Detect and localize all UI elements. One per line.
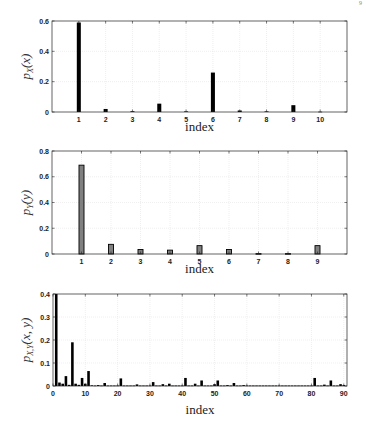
x-tick-label: 7 — [257, 258, 261, 265]
y-tick-label: 0.3 — [40, 314, 50, 321]
y-tick-label: 0.8 — [39, 148, 49, 155]
bar — [71, 342, 74, 386]
plot-area — [52, 21, 347, 112]
chart-pxy: 00.10.20.30.40102030405060708090indexpX,… — [18, 291, 348, 418]
x-tick-label: 7 — [238, 116, 242, 123]
y-tick-label: 0 — [45, 251, 49, 258]
bar — [103, 383, 106, 386]
bar — [313, 378, 316, 386]
x-tick-label: 70 — [275, 390, 283, 397]
bar — [65, 376, 68, 386]
y-tick-label: 0.2 — [40, 337, 50, 344]
y-tick-label: 0.4 — [40, 291, 50, 298]
bar — [330, 380, 333, 386]
x-tick-label: 0 — [51, 390, 55, 397]
y-tick-label: 0.1 — [40, 360, 50, 367]
y-tick-label: 0.4 — [39, 48, 49, 55]
x-axis-label: index — [185, 119, 214, 134]
y-axis-label: pX(x) — [18, 54, 35, 81]
bar — [233, 383, 236, 386]
x-tick-label: 3 — [139, 258, 143, 265]
x-tick-label: 10 — [316, 116, 324, 123]
x-tick-label: 90 — [340, 390, 348, 397]
y-tick-label: 0.4 — [39, 199, 49, 206]
x-axis-label: index — [185, 261, 214, 276]
x-axis-label: index — [186, 402, 215, 417]
x-tick-label: 80 — [308, 390, 316, 397]
x-tick-label: 30 — [146, 390, 154, 397]
y-axis-label: pY(y) — [18, 190, 35, 216]
chart-py: 00.20.40.60.8123456789indexpY(y) — [18, 148, 347, 277]
x-tick-label: 40 — [178, 390, 186, 397]
x-tick-label: 1 — [77, 116, 81, 123]
bar — [211, 73, 215, 112]
x-tick-label: 50 — [211, 390, 219, 397]
x-tick-label: 9 — [316, 258, 320, 265]
x-tick-label: 4 — [157, 116, 161, 123]
x-tick-label: 4 — [168, 258, 172, 265]
bar — [58, 383, 61, 386]
bar — [184, 378, 187, 386]
chart-px-marginal: 00.20.40.612345678910indexpX(x)00.20.40.… — [0, 0, 366, 425]
bar — [87, 371, 90, 386]
y-tick-label: 0.2 — [39, 225, 49, 232]
chart-px: 00.20.40.612345678910indexpX(x) — [18, 18, 347, 135]
y-tick-label: 0.6 — [39, 18, 49, 25]
x-tick-label: 1 — [80, 258, 84, 265]
y-tick-label: 0.2 — [39, 78, 49, 85]
x-tick-label: 10 — [81, 390, 89, 397]
y-axis-label: pX,Y(x, y) — [18, 318, 35, 364]
x-tick-label: 6 — [227, 258, 231, 265]
bar — [120, 378, 123, 386]
bar — [79, 165, 84, 254]
bar — [81, 378, 84, 386]
bar — [216, 380, 219, 386]
x-tick-label: 3 — [131, 116, 135, 123]
y-tick-label: 0 — [45, 109, 49, 116]
x-tick-label: 2 — [104, 116, 108, 123]
x-tick-label: 8 — [265, 116, 269, 123]
y-tick-label: 0 — [46, 383, 50, 390]
y-tick-label: 0.6 — [39, 173, 49, 180]
bar — [77, 23, 81, 112]
x-tick-label: 2 — [109, 258, 113, 265]
bar — [152, 382, 155, 386]
bar — [200, 380, 203, 386]
x-tick-label: 60 — [243, 390, 251, 397]
x-tick-label: 20 — [114, 390, 122, 397]
x-tick-label: 9 — [291, 116, 295, 123]
x-tick-label: 8 — [286, 258, 290, 265]
